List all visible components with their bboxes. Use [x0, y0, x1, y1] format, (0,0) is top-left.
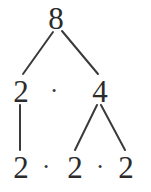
node-root-8: 8 [45, 3, 67, 34]
multiplication-dot-level2: · [47, 78, 61, 104]
multiplication-dot-level3-second: · [93, 154, 107, 180]
edge-root-to-right-4 [62, 31, 98, 74]
edge-4-to-bottom-2-right [101, 105, 125, 150]
node-level2-right-4: 4 [89, 76, 111, 107]
edge-root-to-left-2 [23, 32, 53, 74]
edge-4-to-bottom-2-left [75, 105, 97, 150]
node-level3-first-2: 2 [10, 152, 32, 183]
node-level3-second-2: 2 [64, 152, 86, 183]
node-level2-left-2: 2 [10, 76, 32, 107]
factor-tree-diagram: 8 2 · 4 2 · 2 · 2 [0, 0, 151, 192]
multiplication-dot-level3-first: · [39, 154, 53, 180]
node-level3-third-2: 2 [115, 152, 137, 183]
